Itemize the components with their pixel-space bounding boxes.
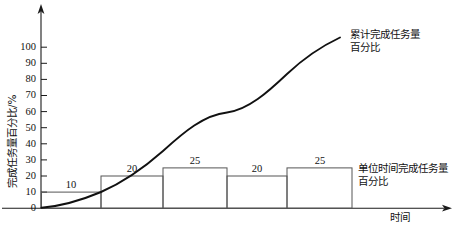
y-tick-label-0: 0 xyxy=(0,203,36,214)
annotation-cumulative-line1: 累计完成任务量 xyxy=(350,28,420,41)
cumulative-s-curve xyxy=(42,38,341,208)
annotation-cumulative: 累计完成任务量 百分比 xyxy=(350,28,420,55)
y-tick-label-100: 100 xyxy=(0,42,36,53)
s-curve-chart: 100 90 80 70 60 50 40 30 20 10 0 10 20 2… xyxy=(0,0,457,239)
bar-3 xyxy=(163,168,227,208)
bar-value-3: 25 xyxy=(180,156,210,167)
bar-series xyxy=(42,168,353,208)
y-axis-ticks xyxy=(41,47,47,192)
bar-value-5: 25 xyxy=(305,156,335,167)
bar-5 xyxy=(287,168,352,208)
y-tick-label-90: 90 xyxy=(0,58,36,69)
y-axis-title: 完成任务量百分比/% xyxy=(4,94,19,188)
bar-value-1: 10 xyxy=(56,180,86,191)
x-axis-title: 时间 xyxy=(390,212,410,223)
bar-value-4: 20 xyxy=(242,164,272,175)
annotation-per-period: 单位时间完成任务量 百分比 xyxy=(358,162,448,189)
annotation-per-period-line1: 单位时间完成任务量 xyxy=(358,162,448,175)
bar-4 xyxy=(227,176,287,208)
annotation-per-period-line2: 百分比 xyxy=(358,175,448,188)
bar-value-2: 20 xyxy=(117,164,147,175)
bar-2 xyxy=(101,176,163,208)
y-tick-label-80: 80 xyxy=(0,74,36,85)
annotation-cumulative-line2: 百分比 xyxy=(350,41,420,54)
bar-1 xyxy=(42,192,102,208)
y-axis xyxy=(38,4,45,208)
y-tick-label-10: 10 xyxy=(0,187,36,198)
